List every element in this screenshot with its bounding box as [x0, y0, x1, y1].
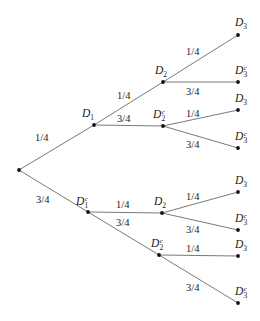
event-label: Dc3: [234, 285, 248, 300]
tree-node: [86, 210, 90, 214]
tree-branch: [163, 110, 238, 126]
tree-branch: [19, 125, 94, 170]
event-label: Dc2: [150, 237, 164, 252]
tree-node: [236, 108, 240, 112]
tree-branch: [159, 255, 238, 303]
branch-probability-label: 3/4: [186, 139, 200, 150]
node-event-labels: D1Dc1D2Dc2D2Dc2D3Dc3D3Dc3D3Dc3D3Dc3: [75, 16, 248, 300]
event-label: D1: [81, 107, 94, 122]
event-label: Dc3: [234, 130, 248, 145]
branch-probability-label: 1/4: [116, 199, 130, 210]
tree-node: [157, 253, 161, 257]
tree-nodes: [17, 33, 240, 305]
tree-node: [236, 190, 240, 194]
event-label: Dc3: [234, 64, 248, 79]
branch-probability-label: 3/4: [186, 86, 200, 97]
branch-probability-label: 3/4: [186, 282, 200, 293]
event-label: D2: [154, 64, 167, 79]
event-label: D3: [234, 174, 247, 189]
tree-node: [236, 301, 240, 305]
event-label: D2: [153, 195, 166, 210]
branch-probability-label: 1/4: [186, 108, 200, 119]
event-label: Dc1: [75, 195, 89, 210]
branch-probability-label: 1/4: [186, 46, 200, 57]
tree-branch: [163, 126, 238, 148]
branch-probability-label: 3/4: [116, 217, 130, 228]
branch-probability-label: 3/4: [186, 224, 200, 235]
tree-node: [161, 80, 165, 84]
branch-probability-label: 3/4: [36, 194, 50, 205]
branch-probability-label: 1/4: [35, 132, 49, 143]
event-label: Dc2: [152, 108, 166, 123]
branch-probability-label: 3/4: [117, 113, 131, 124]
event-label: D3: [234, 238, 247, 253]
branch-probability-label: 1/4: [117, 90, 131, 101]
tree-branch: [88, 212, 162, 213]
tree-node: [236, 146, 240, 150]
root-node: [17, 168, 21, 172]
tree-edges: [19, 35, 238, 303]
tree-node: [236, 254, 240, 258]
branch-probability-label: 1/4: [186, 191, 200, 202]
edge-probability-labels: 1/43/41/43/41/43/41/43/41/43/41/43/41/43…: [35, 46, 200, 293]
tree-node: [92, 123, 96, 127]
tree-node: [236, 80, 240, 84]
tree-branch: [94, 125, 163, 126]
event-label: D3: [234, 92, 247, 107]
branch-probability-label: 1/4: [186, 243, 200, 254]
tree-node: [160, 211, 164, 215]
tree-branch: [162, 213, 238, 230]
tree-node: [161, 124, 165, 128]
tree-node: [236, 33, 240, 37]
tree-branch: [162, 192, 238, 213]
event-label: Dc3: [234, 212, 248, 227]
event-label: D3: [234, 16, 247, 31]
tree-branch: [159, 255, 238, 256]
tree-node: [236, 228, 240, 232]
tree-branch: [163, 35, 238, 82]
probability-tree: 1/43/41/43/41/43/41/43/41/43/41/43/41/43…: [0, 0, 260, 321]
